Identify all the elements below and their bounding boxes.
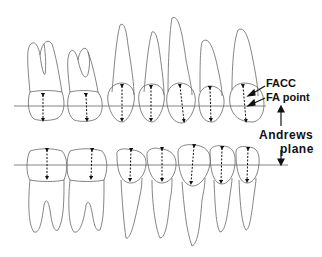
fa-point-label: FA point — [266, 91, 310, 103]
facc-label: FACC — [266, 77, 296, 89]
plane-label: plane — [280, 142, 314, 156]
diagram-root: FACC FA point Andrews plane — [0, 0, 322, 257]
andrews-label: Andrews — [259, 128, 313, 142]
